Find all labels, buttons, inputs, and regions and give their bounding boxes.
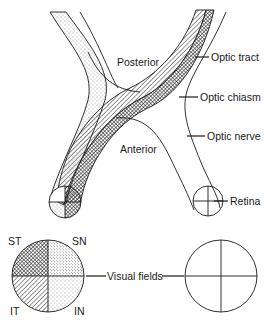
- quadrant-sn-label: SN: [72, 235, 87, 247]
- quadrant-in-label: IN: [74, 305, 85, 317]
- optic-tract-label: Optic tract: [211, 51, 259, 63]
- optic-chiasm-label: Optic chiasm: [200, 91, 261, 103]
- optic-pathway-diagram: Posterior Anterior Optic tract Optic chi…: [0, 0, 267, 327]
- visual-fields-label: Visual fields: [107, 270, 163, 282]
- optic-nerve-label: Optic nerve: [207, 130, 261, 142]
- posterior-label: Posterior: [117, 56, 160, 68]
- optic-pathway: Posterior Anterior Optic tract Optic chi…: [49, 10, 261, 218]
- left-retina: [49, 186, 81, 218]
- visual-fields: ST SN IT IN Visual fields: [8, 235, 257, 317]
- quadrant-it-label: IT: [10, 305, 20, 317]
- quadrant-st-label: ST: [8, 235, 22, 247]
- left-visual-field: [12, 240, 84, 312]
- anterior-label: Anterior: [120, 143, 157, 155]
- retina-label: Retina: [230, 195, 261, 207]
- right-visual-field: [185, 240, 257, 312]
